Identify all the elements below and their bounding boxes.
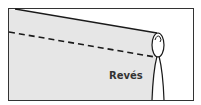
hem-diagram (0, 0, 201, 105)
wrong-side-label: Revés (109, 70, 143, 81)
